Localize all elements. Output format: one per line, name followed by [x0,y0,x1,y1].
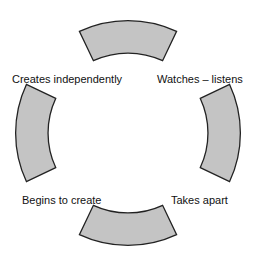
label-begins-to-create: Begins to create [22,194,102,206]
label-watches-listens: Watches – listens [157,73,243,85]
arc-segment-bottom [79,205,176,245]
label-takes-apart: Takes apart [171,194,228,206]
cycle-diagram [0,0,258,260]
arc-segment-left [16,84,56,181]
arc-segment-right [200,84,240,181]
arc-segment-top [79,21,176,61]
label-creates-independently: Creates independently [12,73,122,85]
